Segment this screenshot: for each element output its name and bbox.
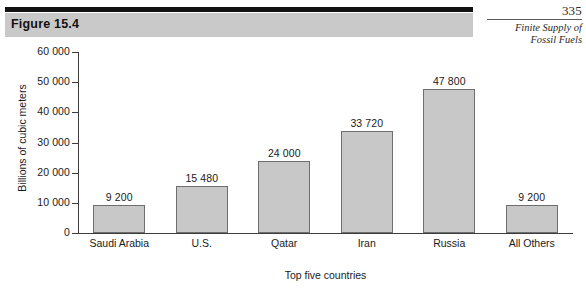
x-axis-line [78, 233, 573, 234]
y-axis-line [78, 52, 79, 234]
bar: 15 480 [176, 186, 228, 233]
running-head-line-1: Finite Supply of [487, 22, 582, 34]
header-divider [487, 19, 582, 20]
bar: 9 200 [506, 205, 558, 233]
page-number: 335 [487, 4, 582, 18]
bar-group: 47 800 [423, 89, 475, 233]
y-axis-tick [72, 143, 78, 144]
bar-value-label: 15 480 [164, 172, 240, 186]
y-axis-tick [72, 82, 78, 83]
x-axis-category-label: All Others [480, 237, 584, 249]
bar-value-label: 33 720 [329, 117, 405, 131]
y-axis-title: Billions of cubic meters [16, 68, 28, 208]
bar-value-label: 24 000 [246, 147, 322, 161]
y-axis-tick-label: 0 [8, 226, 70, 238]
page-running-head: 335 Finite Supply of Fossil Fuels [487, 4, 582, 45]
y-axis-tick [72, 203, 78, 204]
bar-value-label: 9 200 [494, 191, 570, 205]
y-axis-tick [72, 52, 78, 53]
bar-value-label: 9 200 [81, 191, 157, 205]
y-axis-tick-label: 60 000 [8, 45, 70, 57]
figure-label: Figure 15.4 [11, 17, 79, 31]
bar-group: 33 720 [341, 131, 393, 233]
bar: 9 200 [93, 205, 145, 233]
bar: 47 800 [423, 89, 475, 233]
bar-group: 15 480 [176, 186, 228, 233]
bar: 33 720 [341, 131, 393, 233]
bar: 24 000 [258, 161, 310, 233]
bar-chart: 010 00020 00030 00040 00050 00060 000 Bi… [0, 40, 586, 290]
y-axis-tick [72, 112, 78, 113]
bar-group: 24 000 [258, 161, 310, 233]
x-axis-title: Top five countries [78, 269, 573, 281]
bar-group: 9 200 [93, 205, 145, 233]
y-axis-tick-labels: 010 00020 00030 00040 00050 00060 000 [4, 40, 70, 240]
bar-value-label: 47 800 [411, 75, 487, 89]
bar-group: 9 200 [506, 205, 558, 233]
figure-band-rule [5, 7, 473, 12]
y-axis-tick [72, 233, 78, 234]
y-axis-tick [72, 173, 78, 174]
